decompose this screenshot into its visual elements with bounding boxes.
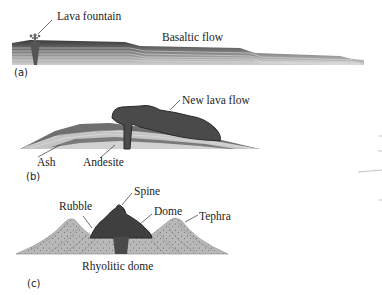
- label-lava-fountain: Lava fountain: [57, 11, 121, 23]
- panel-tag-c: (c): [27, 279, 40, 289]
- label-spine: Spine: [134, 186, 160, 198]
- panel-c-rhyolitic-dome: [16, 193, 228, 254]
- margin-marks: [358, 136, 382, 200]
- label-rubble: Rubble: [59, 201, 92, 213]
- volcano-diagram: [0, 0, 382, 295]
- caption-rhyolitic-dome: Rhyolitic dome: [82, 261, 153, 273]
- panel-tag-a: (a): [14, 68, 28, 78]
- label-basaltic-flow: Basaltic flow: [162, 32, 223, 44]
- label-ash: Ash: [37, 157, 56, 169]
- label-tephra: Tephra: [199, 211, 231, 223]
- label-dome: Dome: [154, 206, 182, 218]
- label-andesite: Andesite: [83, 157, 124, 169]
- panel-b-lava-flow: [20, 100, 260, 158]
- label-new-lava-flow: New lava flow: [182, 95, 250, 107]
- panel-tag-b: (b): [26, 172, 40, 182]
